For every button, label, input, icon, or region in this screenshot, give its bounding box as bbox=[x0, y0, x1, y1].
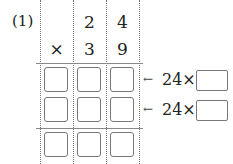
answer-box-r1-c1[interactable] bbox=[44, 67, 68, 92]
rule-line-top bbox=[36, 63, 143, 64]
answer-box-r3-c2[interactable] bbox=[77, 132, 101, 157]
answer-box-r2-c3[interactable] bbox=[110, 97, 134, 122]
multiplier-ones-digit: 9 bbox=[106, 39, 139, 59]
multiply-operator: × bbox=[40, 39, 73, 59]
multiplicand-ones-digit: 4 bbox=[106, 12, 139, 32]
column-divider-1 bbox=[40, 0, 41, 164]
partial-answer-box-2[interactable] bbox=[196, 100, 228, 121]
column-divider-4 bbox=[139, 0, 140, 164]
problem-number: (1) bbox=[12, 12, 33, 30]
left-arrow-icon: ← bbox=[143, 102, 153, 116]
partial-hint-1: 24× bbox=[162, 70, 196, 89]
multiplier-tens-digit: 3 bbox=[73, 39, 106, 59]
partial-hint-2: 24× bbox=[162, 100, 196, 119]
answer-box-r1-c2[interactable] bbox=[77, 67, 101, 92]
rule-line-bottom bbox=[36, 128, 143, 129]
answer-box-r3-c1[interactable] bbox=[44, 132, 68, 157]
answer-box-r1-c3[interactable] bbox=[110, 67, 134, 92]
multiplicand-tens-digit: 2 bbox=[73, 12, 106, 32]
answer-box-r2-c2[interactable] bbox=[77, 97, 101, 122]
answer-box-r3-c3[interactable] bbox=[110, 132, 134, 157]
partial-answer-box-1[interactable] bbox=[196, 70, 228, 91]
answer-box-r2-c1[interactable] bbox=[44, 97, 68, 122]
left-arrow-icon: ← bbox=[143, 72, 153, 86]
